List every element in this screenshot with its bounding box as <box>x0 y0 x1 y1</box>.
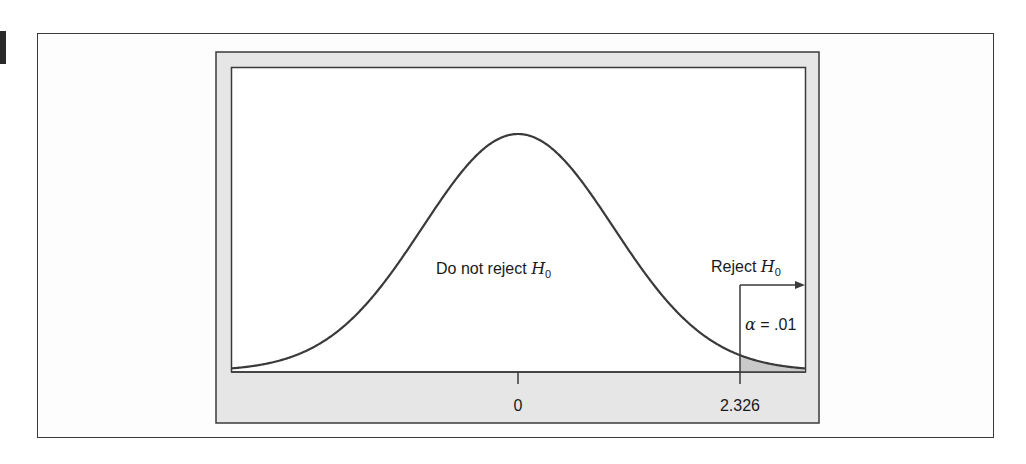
h-subscript: 0 <box>545 268 551 280</box>
alpha-value: = .01 <box>756 316 797 333</box>
normal-curve-chart: 0 2.326 Do not reject H0 Reject H0 α = .… <box>0 0 1026 464</box>
h-variable: H <box>530 259 546 278</box>
alpha-symbol: α <box>745 315 756 334</box>
h-variable: H <box>760 257 776 276</box>
do-not-reject-text: Do not reject <box>436 260 531 277</box>
reject-text: Reject <box>711 258 761 275</box>
tick-label-zero: 0 <box>514 397 523 414</box>
alpha-label: α = .01 <box>745 315 796 334</box>
reject-label: Reject H0 <box>711 257 781 278</box>
plot-area <box>232 68 806 373</box>
h-subscript: 0 <box>775 266 781 278</box>
do-not-reject-label: Do not reject H0 <box>436 259 551 280</box>
tick-label-critical: 2.326 <box>720 397 760 414</box>
